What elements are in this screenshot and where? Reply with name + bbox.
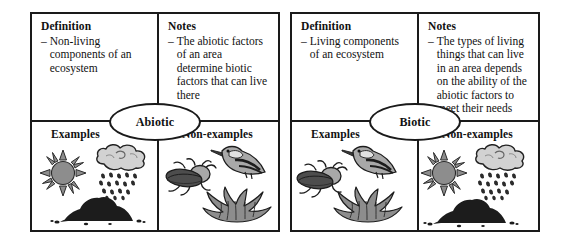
definition-text: Living components of an ecosystem xyxy=(310,35,409,62)
quadrant-title-notes: Notes xyxy=(428,20,530,33)
examples-illustrations xyxy=(32,142,157,228)
bird-icon xyxy=(336,142,400,182)
examples-illustrations xyxy=(292,142,417,228)
definition-text: Non-living components of an ecosystem xyxy=(50,35,149,75)
quadrant-notes: Notes – The abiotic factors of an area d… xyxy=(159,14,278,120)
grass-clump-icon xyxy=(330,186,406,226)
concept-oval-biotic: Biotic xyxy=(369,103,461,141)
concept-oval-abiotic: Abiotic xyxy=(109,103,201,141)
soil-pile-icon xyxy=(423,192,519,228)
quadrant-notes: Notes – The types of living things that … xyxy=(419,14,538,120)
sun-icon xyxy=(421,150,467,196)
notes-bullet: – The types of living things that can li… xyxy=(428,35,530,115)
definition-bullet: – Non-living components of an ecosystem xyxy=(41,35,149,75)
bullet-marker: – xyxy=(41,35,50,75)
notes-bullet: – The abiotic factors of an area determi… xyxy=(168,35,270,102)
concept-map-biotic: Definition – Living components of an eco… xyxy=(290,12,540,232)
definition-bullet: – Living components of an ecosystem xyxy=(301,35,409,62)
bullet-marker: – xyxy=(168,35,177,102)
bird-icon xyxy=(205,142,269,182)
grass-clump-icon xyxy=(199,186,275,226)
concept-map-abiotic: Definition – Non-living components of an… xyxy=(30,12,280,232)
bullet-marker: – xyxy=(301,35,310,62)
quadrant-title-definition: Definition xyxy=(301,20,409,33)
quadrant-title-notes: Notes xyxy=(168,20,270,33)
soil-pile-icon xyxy=(50,190,146,226)
non-examples-illustrations xyxy=(419,142,538,228)
concept-label: Biotic xyxy=(399,115,430,130)
concept-label: Abiotic xyxy=(136,115,175,130)
quadrant-title-definition: Definition xyxy=(41,20,149,33)
notes-text: The abiotic factors of an area determine… xyxy=(177,35,270,102)
non-examples-illustrations xyxy=(159,142,278,228)
notes-text: The types of living things that can live… xyxy=(437,35,530,115)
worksheet-canvas: Definition – Non-living components of an… xyxy=(0,0,568,246)
